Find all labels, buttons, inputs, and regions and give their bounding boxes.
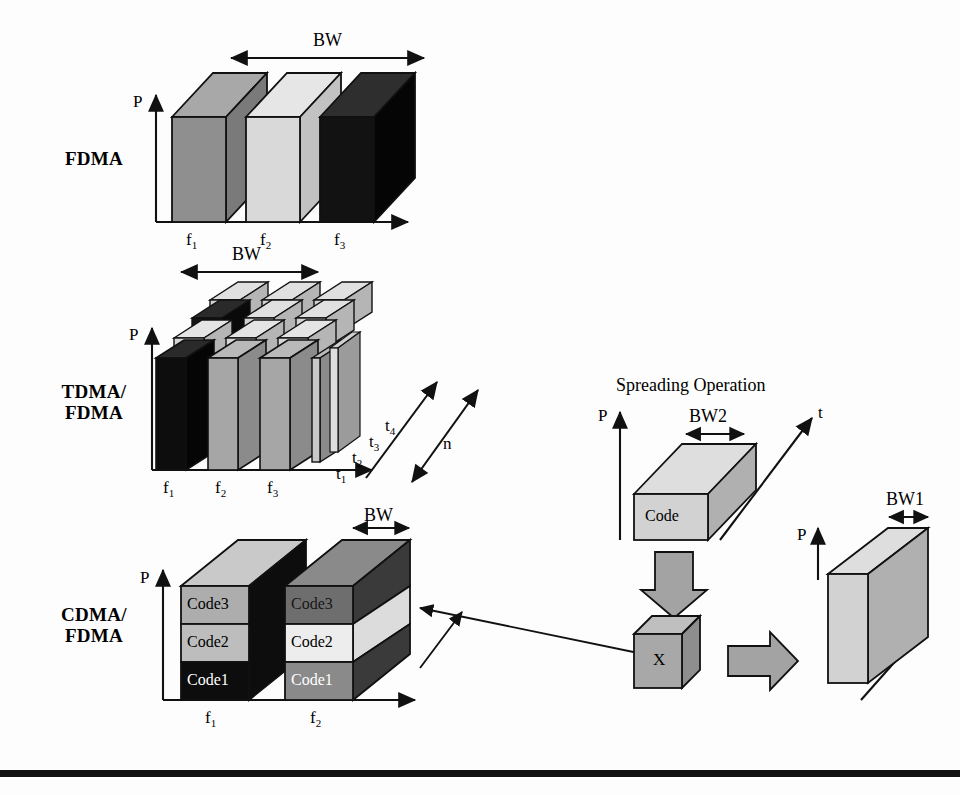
fdma-bw-label: BW [313,30,342,51]
multiplier-label: X [653,650,665,670]
narrowband-power-axis-label: P [797,525,806,545]
spreading-time-axis-label: t [818,403,823,423]
cdma-power-axis-label: P [140,568,149,588]
row-label-tdma-line1: TDMA/ [34,381,154,402]
cdma-f2-code3-label: Code3 [291,595,333,613]
figure-canvas: FDMA TDMA/ FDMA CDMA/ FDMA BW P f1 f2 f3… [0,0,960,795]
tdma-freq-label-f2: f2 [215,478,226,499]
tdma-power-axis-label: P [129,325,138,345]
fdma-power-axis-label: P [133,92,142,112]
row-label-tdma-line2: FDMA [34,402,154,423]
spreading-title: Spreading Operation [616,375,765,396]
spreading-power-axis-label: P [598,406,607,426]
multiplier-cube [634,616,700,688]
tdma-freq-label-f1: f1 [163,478,174,499]
narrowband-block [818,517,928,700]
bottom-divider-rule [0,770,960,777]
tdma-time-label-t4: t4 [385,416,395,437]
cdma-freq-label-f2: f2 [310,708,321,729]
row-label-cdma: CDMA/ FDMA [34,604,154,646]
row-label-cdma-line2: FDMA [34,625,154,646]
cdma-freq-label-f1: f1 [205,708,216,729]
cdma-f1-code3-label: Code3 [187,595,229,613]
tdma-bw-label: BW [232,244,261,265]
cdma-panel [163,528,648,700]
tdma-time-label-t2: t2 [352,448,362,469]
cdma-f1-code2-label: Code2 [187,633,229,651]
tdma-depth-label-n: n [443,434,452,454]
tdma-row-t1 [156,332,360,470]
tdma-freq-label-f3: f3 [267,478,278,499]
fdma-freq-label-f2: f2 [260,230,271,251]
spreading-down-arrow [641,552,707,618]
cdma-bw-label: BW [364,505,393,526]
tdma-panel [152,272,478,482]
spreading-bw2-label: BW2 [689,406,727,427]
spreading-left-arrow [728,632,798,690]
cdma-f2-code1-label: Code1 [291,671,333,689]
row-label-tdma: TDMA/ FDMA [34,381,154,423]
spreading-code-block [634,444,756,540]
spreading-result-arrow [420,608,648,655]
fdma-freq-label-f3: f3 [334,230,345,251]
spreading-result-arrow-branch [420,612,462,668]
spreading-panel [620,412,928,700]
fdma-panel [156,58,424,222]
spreading-code-block-label: Code [645,507,679,525]
tdma-time-label-t1: t1 [336,464,346,485]
row-label-fdma: FDMA [34,148,154,169]
row-label-cdma-line1: CDMA/ [34,604,154,625]
spreading-bw1-label: BW1 [886,489,924,510]
cdma-f1-code1-label: Code1 [187,671,229,689]
tdma-time-label-t3: t3 [369,432,379,453]
fdma-freq-label-f1: f1 [186,230,197,251]
cdma-f2-code2-label: Code2 [291,633,333,651]
